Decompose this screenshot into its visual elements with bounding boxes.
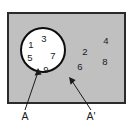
set-label-a-prime: A': [86, 110, 95, 122]
element-8: 8: [102, 56, 107, 67]
element-1: 1: [28, 39, 33, 50]
element-4: 4: [103, 35, 108, 46]
element-5: 5: [27, 52, 32, 63]
set-label-a: A: [21, 110, 28, 122]
element-7: 7: [50, 50, 55, 61]
element-6: 6: [77, 61, 82, 72]
venn-diagram-svg: 1 3 5 7 9 4 2 8 6 A A': [0, 0, 133, 128]
element-2: 2: [82, 46, 87, 57]
element-9: 9: [43, 64, 48, 75]
venn-diagram-figure: 1 3 5 7 9 4 2 8 6 A A': [0, 0, 133, 128]
element-3: 3: [41, 33, 46, 44]
